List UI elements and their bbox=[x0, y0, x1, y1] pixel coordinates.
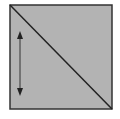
diagram-canvas bbox=[0, 0, 120, 119]
